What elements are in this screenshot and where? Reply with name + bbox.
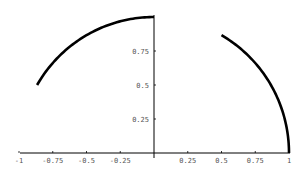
x-tick-label: 0.75 [247,157,264,165]
series-group [37,17,289,153]
arc-right-curve [222,35,290,153]
y-tick-label: 0.75 [132,48,149,56]
x-tick-label: -1 [15,157,23,165]
y-tick-label: 0.5 [136,82,149,90]
y-ticks: 0.250.50.75 [132,48,156,124]
x-tick-label: 1 [287,157,291,165]
x-tick-label: -0.5 [78,157,95,165]
y-tick-label: 0.25 [132,116,149,124]
plot-area: -1-0.75-0.5-0.250.250.50.751 0.250.50.75 [0,0,308,171]
x-tick-label: 0.5 [215,157,228,165]
x-tick-label: 0.25 [179,157,196,165]
x-tick-label: -0.75 [42,157,63,165]
x-tick-label: -0.25 [110,157,131,165]
